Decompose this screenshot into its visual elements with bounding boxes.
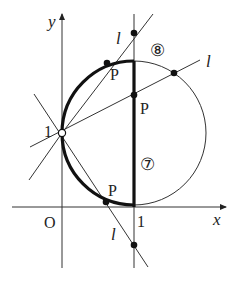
point-dot xyxy=(131,242,138,249)
line-label-l: l xyxy=(111,225,116,244)
point-dot xyxy=(171,70,178,77)
line-through-point xyxy=(29,133,62,180)
line-label-l: l xyxy=(206,52,211,71)
x-axis-label: x xyxy=(212,210,221,229)
point-label-p: P xyxy=(140,100,149,117)
line-l-lower xyxy=(34,94,148,267)
line-label-l: l xyxy=(116,29,121,48)
point-dot xyxy=(131,92,138,99)
locus-arc xyxy=(62,61,134,205)
excluded-point xyxy=(58,129,65,136)
y-tick-label: 1 xyxy=(44,123,52,140)
diagram-canvas: y x O 1 1 l l l P P P ⑧ ⑦ xyxy=(0,0,238,291)
point-dot xyxy=(103,199,110,206)
y-axis-label: y xyxy=(46,12,56,31)
region-label-7: ⑦ xyxy=(140,155,155,174)
origin-label: O xyxy=(44,214,56,231)
point-dot xyxy=(131,30,138,37)
x-tick-label: 1 xyxy=(137,213,145,230)
point-label-p: P xyxy=(110,66,119,83)
point-label-p: P xyxy=(108,182,117,199)
region-label-8: ⑧ xyxy=(150,41,165,60)
